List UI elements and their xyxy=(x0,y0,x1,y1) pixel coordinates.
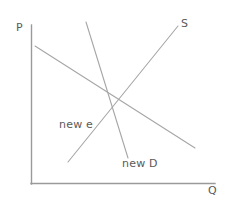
demand-original-line xyxy=(35,46,195,148)
chart-canvas xyxy=(0,0,227,205)
new-equilibrium-label: new e xyxy=(59,119,93,130)
quantity-axis-label: Q xyxy=(208,185,217,196)
demand-new-line xyxy=(86,22,128,158)
supply-demand-chart: P Q S new e new D xyxy=(0,0,227,205)
supply-curve-label: S xyxy=(181,18,188,29)
price-axis-label: P xyxy=(16,22,23,33)
new-demand-curve-label: new D xyxy=(122,158,158,169)
